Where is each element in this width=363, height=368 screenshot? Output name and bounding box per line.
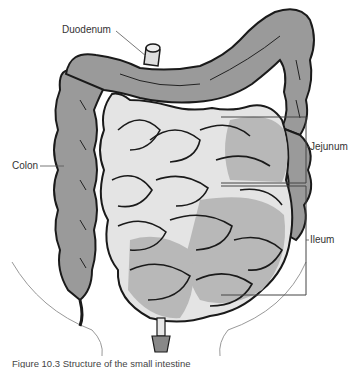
jejunum-label: Jejunum	[310, 141, 348, 152]
appendix-shape	[80, 300, 82, 326]
rectum-shape	[152, 318, 170, 352]
small-intestine-shape	[100, 94, 292, 322]
ileum-label: Ileum	[310, 234, 334, 245]
duodenum-leader	[116, 31, 146, 56]
small-intestine-figure: Duodenum Colon Jejunum Ileum Figure 10.3…	[0, 0, 363, 368]
duodenum-tube	[144, 44, 160, 66]
figure-caption: Figure 10.3 Structure of the small intes…	[12, 358, 190, 368]
intestine-illustration	[0, 0, 363, 368]
duodenum-label: Duodenum	[62, 24, 111, 35]
colon-label: Colon	[12, 160, 38, 171]
